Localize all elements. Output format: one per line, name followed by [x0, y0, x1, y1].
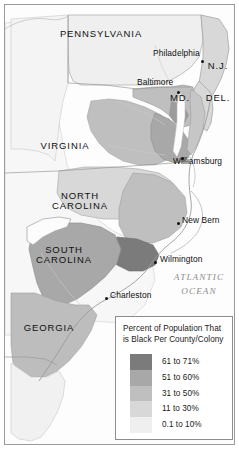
ocean-label-atlantic: ATLANTIC OCEAN [161, 271, 235, 299]
map-frame: PENNSYLVANIA N.J. MD. DEL. VIRGINIA NORT… [4, 4, 235, 445]
legend-label-column: 61 to 71%51 to 60%31 to 50%11 to 30%0.1 … [162, 354, 230, 433]
city-dot-williamsburg [181, 157, 184, 160]
legend-swatch-4 [130, 417, 152, 433]
legend-label-3: 11 to 30% [162, 401, 230, 417]
legend-swatch-1 [130, 370, 152, 386]
legend-label-4: 0.1 to 10% [162, 417, 230, 433]
legend-label-1: 51 to 60% [162, 370, 230, 386]
legend-swatch-column [130, 354, 152, 433]
legend-label-0: 61 to 71% [162, 354, 230, 370]
legend-title: Percent of Population That is Black Per … [123, 324, 229, 346]
city-dot-baltimore [177, 91, 180, 94]
legend-label-2: 31 to 50% [162, 386, 230, 402]
city-dot-charleston [105, 297, 108, 300]
legend-swatch-2 [130, 386, 152, 402]
legend-swatch-3 [130, 401, 152, 417]
city-dot-philadelphia [201, 60, 204, 63]
map-figure: PENNSYLVANIA N.J. MD. DEL. VIRGINIA NORT… [0, 0, 239, 449]
legend-swatch-0 [130, 354, 152, 370]
map-legend: Percent of Population That is Black Per … [115, 316, 233, 440]
city-dot-wilmington [154, 261, 157, 264]
city-dot-new-bern [177, 222, 180, 225]
